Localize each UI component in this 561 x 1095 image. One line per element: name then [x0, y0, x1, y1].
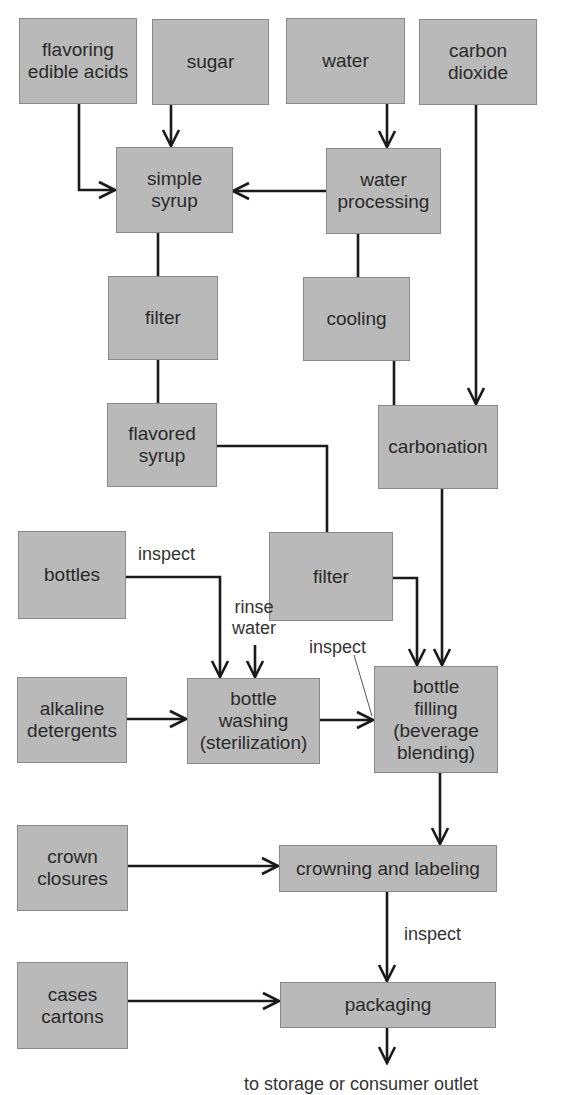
node-bottle-filling: bottle filling (beverage blending): [374, 666, 498, 773]
label-rinse-water: rinse water: [214, 597, 294, 639]
label-inspect-washing: inspect: [309, 637, 366, 658]
node-bottles: bottles: [18, 531, 126, 619]
node-water-processing: water processing: [326, 148, 441, 234]
node-simple-syrup: simple syrup: [116, 147, 233, 233]
inspect-pointer-line: [354, 655, 372, 716]
node-crowning-labeling: crowning and labeling: [279, 845, 497, 892]
node-water: water: [286, 18, 405, 104]
node-filter-syrup: filter: [108, 276, 218, 360]
node-alkaline-detergents: alkaline detergents: [17, 677, 127, 763]
node-flavoring-edible-acids: flavoring edible acids: [19, 18, 137, 104]
node-carbonation: carbonation: [378, 405, 498, 489]
edge-filter-to-bottle-filling: [392, 578, 417, 665]
node-cooling: cooling: [303, 277, 410, 361]
label-inspect-crowning: inspect: [404, 924, 461, 945]
edge-bottles-to-bottle-washing: [125, 577, 220, 677]
node-sugar: sugar: [152, 19, 269, 105]
label-output-destination: to storage or consumer outlet: [244, 1074, 561, 1095]
edge-flavoring-to-simple-syrup: [79, 104, 115, 190]
node-cases-cartons: cases cartons: [17, 962, 128, 1049]
node-packaging: packaging: [280, 982, 496, 1028]
label-inspect-bottles: inspect: [138, 544, 195, 565]
edge-flavored-syrup-to-filter: [216, 446, 327, 532]
node-carbon-dioxide: carbon dioxide: [419, 19, 537, 105]
node-crown-closures: crown closures: [17, 825, 128, 911]
node-bottle-washing: bottle washing (sterilization): [187, 678, 320, 764]
node-flavored-syrup: flavored syrup: [107, 403, 217, 487]
